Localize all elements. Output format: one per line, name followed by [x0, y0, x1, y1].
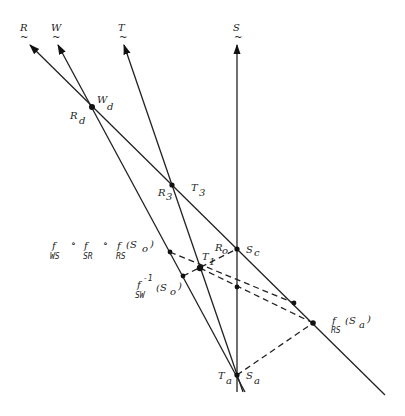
- svg-text:f: f: [51, 240, 58, 251]
- points: [89, 104, 316, 378]
- svg-text:T: T: [218, 370, 226, 381]
- axis-W-line: [58, 45, 245, 392]
- svg-text:): ): [366, 313, 371, 324]
- label-W-d: W d: [97, 94, 113, 112]
- dashed-lines: [170, 249, 313, 375]
- label-R-d: R d: [69, 110, 85, 126]
- svg-text:WS: WS: [50, 252, 60, 261]
- point-T1: [197, 265, 203, 271]
- point-R3: [169, 182, 174, 187]
- point-composite: [168, 250, 173, 255]
- axis-labels: R ~ W ~ T ~ S ~: [19, 22, 242, 42]
- axis-R-line: [30, 45, 385, 395]
- svg-text:R: R: [157, 187, 166, 198]
- svg-text:T: T: [191, 182, 199, 193]
- svg-text:c: c: [254, 247, 260, 258]
- svg-text:(S: (S: [126, 239, 137, 250]
- svg-text:S: S: [246, 244, 253, 255]
- svg-text:~: ~: [234, 31, 242, 42]
- label-R-o: R o: [214, 242, 228, 256]
- label-T-a: T a: [218, 370, 232, 386]
- axis-label-T: T ~: [118, 22, 127, 42]
- point-Wd: [89, 104, 95, 110]
- svg-text:f: f: [136, 279, 143, 290]
- svg-text:f: f: [116, 240, 123, 251]
- svg-text:a: a: [254, 375, 260, 386]
- label-inverse-function: f -1 SW (S o ): [135, 274, 182, 300]
- axis-T-line: [124, 45, 243, 392]
- label-T-1: T 1: [202, 251, 215, 267]
- svg-text:d: d: [107, 101, 113, 112]
- label-S-c: S c: [246, 244, 260, 258]
- svg-text:o: o: [142, 243, 148, 254]
- dashed-segment: [237, 323, 313, 375]
- svg-text:a: a: [359, 319, 365, 330]
- svg-text:∘: ∘: [71, 238, 76, 249]
- point-fSW-inverse: [181, 274, 186, 279]
- svg-text:RS: RS: [331, 326, 341, 335]
- svg-text:3: 3: [166, 191, 172, 202]
- axis-lines: [30, 45, 385, 395]
- label-fRS-Sa: f RS (S a ): [331, 313, 371, 335]
- axis-label-S: S ~: [233, 22, 242, 42]
- svg-text:(S: (S: [156, 282, 167, 293]
- svg-text:f: f: [331, 315, 338, 326]
- label-S-a: S a: [246, 370, 260, 386]
- point-Ta-Sa: [234, 372, 239, 377]
- svg-text:∘: ∘: [103, 238, 108, 249]
- svg-text:a: a: [226, 375, 232, 386]
- svg-text:R: R: [69, 110, 78, 121]
- svg-text:~: ~: [119, 31, 127, 42]
- label-T-3: T 3: [191, 182, 205, 198]
- point-labels: R d W d R 3 T 3 T 1 R o S c T a: [69, 94, 260, 386]
- svg-text:S: S: [246, 370, 253, 381]
- svg-text:~: ~: [52, 31, 60, 42]
- svg-text:): ): [149, 238, 154, 249]
- axis-label-R: R ~: [19, 22, 28, 42]
- point-R-mid: [292, 301, 297, 306]
- svg-text:): ): [177, 280, 182, 291]
- svg-text:o: o: [222, 245, 228, 256]
- point-S-mid: [235, 285, 240, 290]
- point-Sc: [234, 246, 239, 251]
- svg-text:o: o: [170, 286, 176, 297]
- svg-text:1: 1: [209, 256, 215, 267]
- svg-text:RS: RS: [116, 252, 126, 261]
- svg-text:3: 3: [199, 187, 205, 198]
- svg-text:d: d: [79, 115, 85, 126]
- svg-text:-1: -1: [143, 274, 153, 283]
- label-composite-function: f WS ∘ f SR ∘ f RS (S o ): [50, 238, 154, 261]
- svg-text:SR: SR: [83, 252, 93, 261]
- point-fRS-Sa: [310, 320, 316, 326]
- axis-label-W: W ~: [51, 22, 62, 42]
- geometric-diagram: R ~ W ~ T ~ S ~: [0, 0, 405, 416]
- svg-text:f: f: [83, 240, 90, 251]
- label-R-3: R 3: [157, 187, 172, 202]
- dashed-segment: [170, 252, 294, 303]
- svg-text:(S: (S: [345, 315, 356, 326]
- svg-text:~: ~: [20, 31, 28, 42]
- svg-text:SW: SW: [135, 291, 146, 300]
